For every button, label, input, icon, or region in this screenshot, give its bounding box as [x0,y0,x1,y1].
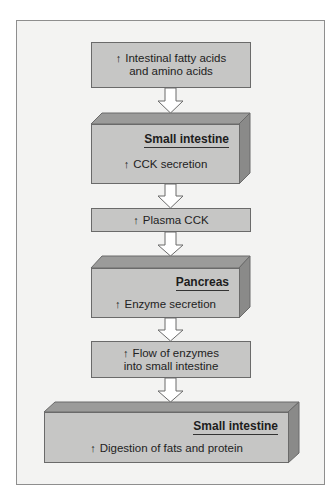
node-line-2: into small intestine [124,360,219,373]
flow-arrow-4 [158,318,183,341]
flow-arrow-1 [158,88,183,113]
node-line-2: and amino acids [129,65,213,78]
node-small-intestine-cck: Small intestine ↑CCK secretion [91,124,240,184]
organ-label: Small intestine [144,133,229,148]
effect-label: ↑Enzyme secretion [92,298,239,310]
node-flow-of-enzymes: ↑Flow of enzymes into small intestine [91,341,251,378]
node-small-intestine-digestion: Small intestine ↑Digestion of fats and p… [44,412,289,463]
flow-arrow-5 [158,378,183,402]
flow-arrow-3 [158,232,183,256]
increase-arrow-icon: ↑ [115,298,121,310]
node-intestinal-fatty-acids: ↑Intestinal fatty acids and amino acids [91,42,251,88]
node-line-1: ↑Intestinal fatty acids [116,52,227,65]
flow-arrow-2 [158,184,183,208]
increase-arrow-icon: ↑ [116,52,122,64]
effect-label: ↑CCK secretion [92,158,239,170]
node-plasma-cck: ↑Plasma CCK [91,208,251,232]
node-line-1: ↑Flow of enzymes [123,347,219,360]
node-line-1: ↑Plasma CCK [133,214,208,227]
increase-arrow-icon: ↑ [124,158,130,170]
increase-arrow-icon: ↑ [90,442,96,454]
effect-label: ↑Digestion of fats and protein [45,442,288,454]
organ-label: Pancreas [176,276,229,291]
increase-arrow-icon: ↑ [133,214,139,226]
organ-label: Small intestine [193,420,278,435]
increase-arrow-icon: ↑ [123,347,129,359]
node-pancreas: Pancreas ↑Enzyme secretion [91,268,240,318]
